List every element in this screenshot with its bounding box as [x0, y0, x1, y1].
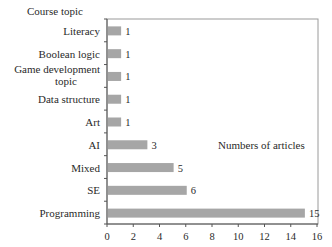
bar-literacy: [108, 26, 121, 35]
value-label: 1: [125, 71, 130, 82]
value-label: 1: [125, 26, 130, 37]
x-tick-label: 0: [104, 231, 109, 242]
category-label: Programming: [40, 207, 101, 219]
x-tick-label: 6: [183, 231, 188, 242]
bar-data-structure: [108, 95, 121, 104]
value-label: 6: [191, 185, 196, 196]
bars-group: [108, 26, 305, 217]
x-tick-label: 16: [312, 231, 323, 242]
bar-chart: Course topic LiteracyBoolean logicGame d…: [0, 0, 332, 247]
category-label: SE: [87, 184, 100, 196]
category-label: Mixed: [71, 162, 100, 174]
value-label: 15: [309, 208, 320, 219]
value-label: 3: [151, 140, 156, 151]
value-label: 5: [178, 163, 183, 174]
bar-boolean-logic: [108, 49, 121, 58]
x-axis-ticks: 0246810121416: [104, 224, 322, 242]
value-label: 1: [125, 94, 130, 105]
bar-art: [108, 118, 121, 127]
category-label: Boolean logic: [39, 48, 101, 60]
value-label: 1: [125, 117, 130, 128]
x-tick-label: 8: [209, 231, 214, 242]
y-axis-title: Course topic: [27, 5, 83, 17]
x-axis-title: Numbers of articles: [218, 139, 305, 151]
category-label: AI: [88, 139, 100, 151]
category-label: Art: [85, 116, 100, 128]
category-label: topic: [55, 75, 77, 87]
bar-mixed: [108, 163, 174, 172]
category-label: Data structure: [38, 93, 100, 105]
bar-se: [108, 186, 187, 195]
category-label: Game development: [14, 63, 100, 75]
bar-ai: [108, 140, 147, 149]
x-tick-label: 14: [286, 231, 297, 242]
bar-programming: [108, 209, 305, 218]
category-label: Literacy: [63, 25, 100, 37]
x-tick-label: 12: [259, 231, 270, 242]
x-tick-label: 4: [157, 231, 163, 242]
x-tick-label: 10: [233, 231, 244, 242]
bar-game-development-topic: [108, 72, 121, 81]
x-tick-label: 2: [131, 231, 136, 242]
value-label: 1: [125, 49, 130, 60]
category-labels: LiteracyBoolean logicGame developmenttop…: [14, 25, 100, 219]
